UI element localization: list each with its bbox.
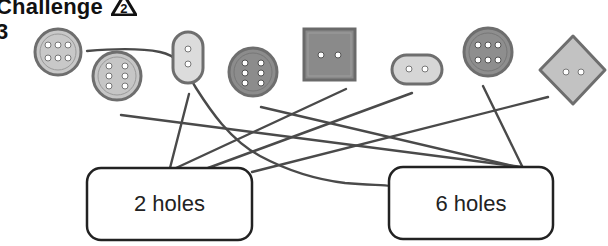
box-6-holes-label: 6 holes bbox=[389, 191, 553, 217]
button-b2[interactable] bbox=[93, 52, 141, 100]
button-b4[interactable] bbox=[229, 48, 277, 96]
button-b8[interactable] bbox=[540, 36, 605, 104]
button-b7[interactable] bbox=[464, 28, 512, 76]
button-b3[interactable] bbox=[173, 32, 203, 83]
button-b1[interactable] bbox=[35, 29, 81, 75]
box-2-holes-label: 2 holes bbox=[87, 191, 252, 217]
line-b7-six[interactable] bbox=[483, 86, 522, 166]
button-b6[interactable] bbox=[392, 55, 442, 84]
line-b3-two[interactable] bbox=[170, 94, 189, 168]
button-b5[interactable] bbox=[304, 29, 355, 80]
